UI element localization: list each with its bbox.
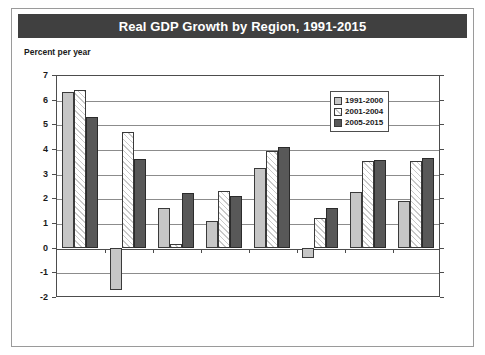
bar: [350, 192, 362, 248]
y-tick-mark: [52, 124, 56, 125]
y-tick-mark: [52, 75, 56, 76]
bar: [182, 193, 194, 247]
chart-figure: Real GDP Growth by Region, 1991-2015 Per…: [11, 8, 474, 347]
bar: [62, 92, 74, 247]
legend-label: 2005-2015: [345, 118, 383, 127]
bar: [230, 196, 242, 248]
x-tick-mark: [297, 249, 298, 253]
y-tick-label: 7: [43, 70, 48, 80]
bar: [410, 161, 422, 247]
y-tick-mark-right: [440, 75, 444, 76]
bar: [74, 90, 86, 248]
y-tick-label: 6: [43, 95, 48, 105]
chart-title-bar: Real GDP Growth by Region, 1991-2015: [18, 14, 467, 38]
legend-swatch-icon: [334, 97, 342, 105]
bar: [218, 191, 230, 248]
bar: [122, 132, 134, 248]
y-tick-mark: [52, 174, 56, 175]
y-tick-mark: [52, 297, 56, 298]
y-tick-label: 3: [43, 169, 48, 179]
legend-item[interactable]: 2005-2015: [334, 117, 383, 128]
bar: [170, 244, 182, 248]
y-tick-mark-right: [440, 248, 444, 249]
y-tick-label: 0: [43, 243, 48, 253]
bar: [266, 151, 278, 247]
y-tick-mark: [52, 198, 56, 199]
y-tick-mark-right: [440, 223, 444, 224]
y-tick-mark: [52, 100, 56, 101]
y-tick-mark-right: [440, 272, 444, 273]
bar: [374, 160, 386, 248]
bar: [206, 221, 218, 248]
bar: [314, 218, 326, 248]
y-tick-mark-right: [440, 198, 444, 199]
bar: [302, 248, 314, 258]
legend-item[interactable]: 1991-2000: [334, 95, 383, 106]
chart-title: Real GDP Growth by Region, 1991-2015: [119, 19, 367, 34]
y-tick-label: -1: [40, 267, 48, 277]
x-tick-mark: [393, 249, 394, 253]
bar: [422, 158, 434, 248]
bar: [326, 208, 338, 247]
chart-legend: 1991-20002001-20042005-2015: [330, 91, 389, 132]
y-tick-mark-right: [440, 124, 444, 125]
y-tick-mark: [52, 223, 56, 224]
legend-label: 1991-2000: [345, 96, 383, 105]
bar: [158, 208, 170, 247]
y-tick-mark: [52, 149, 56, 150]
bar: [398, 201, 410, 248]
x-tick-mark: [153, 249, 154, 253]
bar: [86, 117, 98, 248]
y-tick-mark: [52, 248, 56, 249]
y-tick-label: -2: [40, 292, 48, 302]
legend-swatch-icon: [334, 108, 342, 116]
y-tick-label: 5: [43, 119, 48, 129]
y-tick-label: 1: [43, 218, 48, 228]
legend-label: 2001-2004: [345, 107, 383, 116]
bar: [362, 161, 374, 247]
gridline-4: [57, 150, 439, 151]
bar: [110, 248, 122, 290]
x-tick-mark: [249, 249, 250, 253]
legend-swatch-icon: [334, 119, 342, 127]
y-tick-mark: [52, 272, 56, 273]
bar: [134, 159, 146, 248]
bar: [278, 147, 290, 248]
x-tick-mark: [105, 249, 106, 253]
y-tick-mark-right: [440, 100, 444, 101]
chart-subtitle: Percent per year: [24, 47, 91, 57]
y-tick-mark-right: [440, 174, 444, 175]
y-tick-label: 2: [43, 193, 48, 203]
legend-item[interactable]: 2001-2004: [334, 106, 383, 117]
y-tick-label: 4: [43, 144, 48, 154]
bar: [254, 168, 266, 248]
y-tick-mark-right: [440, 297, 444, 298]
x-tick-mark: [345, 249, 346, 253]
y-tick-mark-right: [440, 149, 444, 150]
x-tick-mark: [201, 249, 202, 253]
